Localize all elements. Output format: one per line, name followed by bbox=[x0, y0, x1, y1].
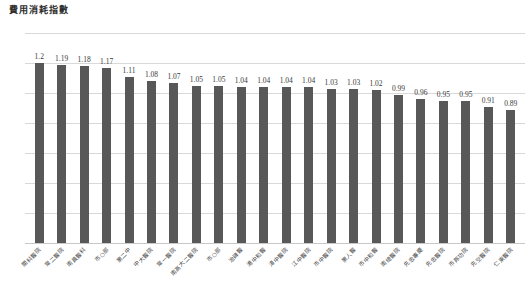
x-label-slot: 市○部 bbox=[208, 245, 230, 303]
bar-series: 1.21.191.181.171.111.081.071.051.051.041… bbox=[25, 33, 525, 243]
bar bbox=[125, 77, 134, 244]
bar bbox=[192, 86, 201, 244]
x-label-slot: 南總醫院 bbox=[387, 245, 409, 303]
bar-value-label: 0.89 bbox=[504, 99, 517, 108]
bar-slot: 0.95 bbox=[455, 33, 477, 243]
bar-value-label: 1.18 bbox=[78, 55, 91, 64]
bar-value-label: 1.05 bbox=[212, 75, 225, 84]
bar-value-label: 1.02 bbox=[369, 79, 382, 88]
bar bbox=[147, 81, 156, 243]
bar-slot: 1.04 bbox=[253, 33, 275, 243]
x-axis-category-label: 市○部 bbox=[94, 247, 111, 264]
bar-slot: 1.03 bbox=[320, 33, 342, 243]
x-axis-category-label: 關科醫院 bbox=[22, 247, 44, 269]
bar bbox=[259, 87, 268, 243]
bar bbox=[394, 95, 403, 244]
bar bbox=[372, 90, 381, 243]
x-label-slot: 市邦功院 bbox=[455, 245, 477, 303]
bar-value-label: 1.07 bbox=[167, 72, 180, 81]
bar bbox=[439, 101, 448, 244]
x-axis-labels: 關科醫院常二醫院南員醫科市○部第二中中大醫院常一醫院南高大二醫院市○部治碑醫港中… bbox=[25, 245, 525, 303]
x-axis-category-label: 治碑醫 bbox=[228, 247, 245, 264]
x-label-slot: 市○部 bbox=[95, 245, 117, 303]
bar bbox=[304, 87, 313, 243]
x-label-slot: 江中醫院 bbox=[297, 245, 319, 303]
bar-value-label: 1.04 bbox=[257, 76, 270, 85]
bar-value-label: 1.11 bbox=[123, 66, 136, 75]
bar bbox=[484, 107, 493, 244]
bar-value-label: 1.17 bbox=[100, 57, 113, 66]
gridline bbox=[25, 243, 525, 244]
x-label-slot: 第二中 bbox=[118, 245, 140, 303]
x-label-slot: 仁東醫院 bbox=[500, 245, 522, 303]
bar-chart: 費用消耗指數 00.20.40.60.811.21.4 1.21.191.181… bbox=[0, 0, 532, 303]
bar-slot: 1.17 bbox=[95, 33, 117, 243]
x-label-slot: 第人醫 bbox=[342, 245, 364, 303]
bar-slot: 1.04 bbox=[230, 33, 252, 243]
bar bbox=[57, 65, 66, 244]
bar-slot: 0.91 bbox=[477, 33, 499, 243]
bar-slot: 1.03 bbox=[342, 33, 364, 243]
bar-slot: 1.18 bbox=[73, 33, 95, 243]
bar-value-label: 1.03 bbox=[325, 78, 338, 87]
bar-value-label: 1.04 bbox=[302, 76, 315, 85]
bar-slot: 1.05 bbox=[208, 33, 230, 243]
bar-slot: 1.04 bbox=[275, 33, 297, 243]
plot-area: 00.20.40.60.811.21.4 1.21.191.181.171.11… bbox=[25, 33, 525, 243]
x-label-slot: 先忠醫院 bbox=[432, 245, 454, 303]
bar-value-label: 1.04 bbox=[235, 76, 248, 85]
bar-value-label: 0.96 bbox=[414, 88, 427, 97]
x-label-slot: 中大醫院 bbox=[140, 245, 162, 303]
x-axis-category-label: 第二中 bbox=[116, 247, 133, 264]
x-label-slot: 市中和醫 bbox=[365, 245, 387, 303]
x-label-slot: 治碑醫 bbox=[230, 245, 252, 303]
x-label-slot: 市中醫院 bbox=[320, 245, 342, 303]
bar-value-label: 0.95 bbox=[459, 90, 472, 99]
bar bbox=[35, 63, 44, 243]
x-label-slot: 港中和醫 bbox=[253, 245, 275, 303]
bar bbox=[80, 66, 89, 243]
bar-slot: 1.19 bbox=[50, 33, 72, 243]
bar bbox=[327, 89, 336, 244]
bar bbox=[169, 83, 178, 244]
x-axis-category-label: 市○部 bbox=[206, 247, 223, 264]
bar-slot: 1.07 bbox=[163, 33, 185, 243]
bar-value-label: 1.2 bbox=[35, 52, 44, 61]
bar-value-label: 1.03 bbox=[347, 78, 360, 87]
bar bbox=[461, 101, 470, 244]
bar-value-label: 1.05 bbox=[190, 75, 203, 84]
x-label-slot: 關科醫院 bbox=[28, 245, 50, 303]
x-label-slot: 常二醫院 bbox=[50, 245, 72, 303]
bar bbox=[237, 87, 246, 243]
bar bbox=[102, 68, 111, 244]
bar-value-label: 1.04 bbox=[280, 76, 293, 85]
bar-slot: 1.05 bbox=[185, 33, 207, 243]
x-label-slot: 南員醫科 bbox=[73, 245, 95, 303]
bar bbox=[349, 89, 358, 244]
x-label-slot: 漳中醫院 bbox=[275, 245, 297, 303]
bar-value-label: 0.91 bbox=[482, 96, 495, 105]
bar bbox=[282, 87, 291, 243]
bar-slot: 1.2 bbox=[28, 33, 50, 243]
bar-slot: 1.08 bbox=[140, 33, 162, 243]
bar-slot: 0.89 bbox=[500, 33, 522, 243]
bar bbox=[416, 99, 425, 243]
bar-value-label: 0.95 bbox=[437, 90, 450, 99]
bar-slot: 1.04 bbox=[297, 33, 319, 243]
chart-title: 費用消耗指數 bbox=[9, 3, 69, 16]
bar-slot: 0.95 bbox=[432, 33, 454, 243]
bar-value-label: 1.19 bbox=[55, 54, 68, 63]
x-label-slot: 先忠專慶 bbox=[410, 245, 432, 303]
bar bbox=[214, 86, 223, 244]
x-label-slot: 先空醫院 bbox=[477, 245, 499, 303]
bar-slot: 0.99 bbox=[387, 33, 409, 243]
bar-value-label: 0.99 bbox=[392, 84, 405, 93]
bar-slot: 1.02 bbox=[365, 33, 387, 243]
x-axis-category-label: 第人醫 bbox=[340, 247, 357, 264]
bar-slot: 1.11 bbox=[118, 33, 140, 243]
x-label-slot: 南高大二醫院 bbox=[185, 245, 207, 303]
bar bbox=[506, 110, 515, 244]
bar-slot: 0.96 bbox=[410, 33, 432, 243]
bar-value-label: 1.08 bbox=[145, 70, 158, 79]
